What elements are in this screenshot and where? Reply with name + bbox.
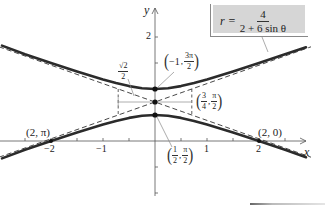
upper-branch [2,46,306,89]
x-axis-label: x [304,146,309,158]
point-bottom-vertex [152,112,157,117]
equation-denominator: 2 + 6 sin θ [240,22,286,34]
x-tick-2: 2 [256,144,261,154]
point-top-vertex [152,86,157,91]
equation-lhs: r = [220,14,236,29]
y-tick-2: 2 [146,31,151,41]
label-point-top: ( −1 , 3π 2 ) [164,52,199,71]
label-sqrt2-over-2: √2 2 [118,62,128,81]
x-tick-neg1: −1 [96,144,107,154]
x-tick-1: 1 [204,144,209,154]
y-axis-label: y [144,4,149,16]
equation-box-border-bottom [210,36,308,37]
equation-fraction: 4 2 + 6 sin θ [240,9,286,34]
equation: r = 4 2 + 6 sin θ [220,9,286,34]
label-point-right: (2, 0) [258,127,282,138]
label-point-center: ( 3 4 , π 2 ) [196,92,222,111]
label-point-left: (2, π) [26,127,50,138]
equation-box-border-left [210,4,211,36]
leader-bottom [157,117,172,147]
page-edge-bar [250,203,325,205]
equation-numerator: 4 [257,9,269,22]
label-point-bottom: ( 1 2 , π 2 ) [167,146,193,165]
point-center [152,99,157,104]
leader-eq [262,37,268,52]
leader-top [157,72,174,88]
x-tick-neg2: −2 [44,144,55,154]
